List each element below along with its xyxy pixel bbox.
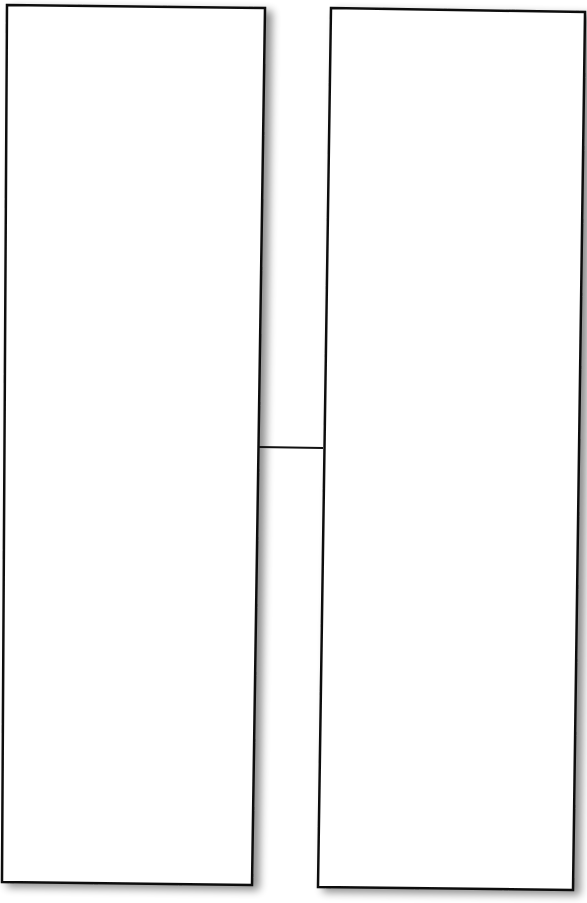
left-box	[2, 5, 265, 885]
connector-line	[258, 447, 323, 448]
diagram-canvas	[0, 0, 587, 903]
right-box	[318, 8, 585, 890]
